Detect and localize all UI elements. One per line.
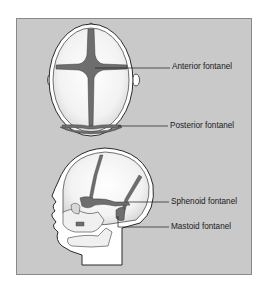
- skull-illustration: [0, 0, 265, 286]
- skull-side-view: [52, 148, 154, 265]
- label-sphenoid-fontanel: Sphenoid fontanel: [171, 198, 237, 206]
- label-posterior-fontanel: Posterior fontanel: [170, 122, 234, 130]
- label-anterior-fontanel: Anterior fontanel: [172, 63, 232, 71]
- skull-top-view: [48, 23, 140, 136]
- label-mastoid-fontanel: Mastoid fontanel: [171, 223, 231, 231]
